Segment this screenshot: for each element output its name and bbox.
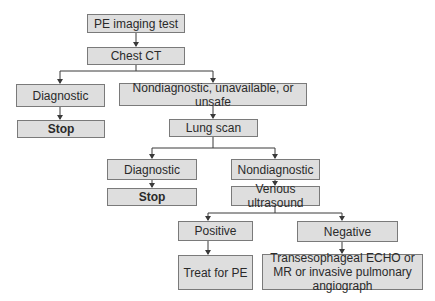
node-positive: Positive bbox=[178, 221, 253, 241]
node-label: PE imaging test bbox=[94, 17, 178, 31]
node-label: Chest CT bbox=[111, 49, 162, 63]
node-label: Stop bbox=[48, 122, 75, 136]
node-label: Positive bbox=[194, 224, 236, 238]
node-label: Diagnostic bbox=[32, 89, 88, 103]
node-ls-stop: Stop bbox=[107, 188, 197, 206]
node-label: Nondiagnostic, unavailable, or unsafe bbox=[120, 81, 306, 109]
flowchart: PE imaging test Chest CT Diagnostic Nond… bbox=[0, 0, 435, 301]
node-label: Lung scan bbox=[186, 121, 241, 135]
node-chest-ct: Chest CT bbox=[87, 47, 185, 65]
node-ct-stop: Stop bbox=[17, 120, 105, 138]
node-label: Negative bbox=[324, 225, 371, 239]
node-lung-scan: Lung scan bbox=[169, 119, 258, 137]
node-ls-nondiagnostic: Nondiagnostic bbox=[231, 159, 320, 180]
node-label: Treat for PE bbox=[183, 266, 247, 280]
node-label: Transesophageal ECHO or MR or invasive p… bbox=[266, 251, 419, 293]
node-ls-diagnostic: Diagnostic bbox=[107, 159, 197, 180]
node-treat-for-pe: Treat for PE bbox=[178, 255, 253, 290]
node-label: Diagnostic bbox=[124, 163, 180, 177]
node-pe-imaging-test: PE imaging test bbox=[87, 14, 185, 33]
node-ct-diagnostic: Diagnostic bbox=[16, 84, 105, 107]
node-label: Nondiagnostic bbox=[237, 163, 313, 177]
node-venous-ultrasound: Venous ultrasound bbox=[231, 186, 320, 206]
node-further-imaging: Transesophageal ECHO or MR or invasive p… bbox=[262, 254, 423, 290]
node-label: Stop bbox=[139, 190, 166, 204]
node-ct-nondiagnostic: Nondiagnostic, unavailable, or unsafe bbox=[119, 83, 307, 106]
node-negative: Negative bbox=[297, 221, 398, 242]
node-label: Venous ultrasound bbox=[232, 182, 319, 210]
